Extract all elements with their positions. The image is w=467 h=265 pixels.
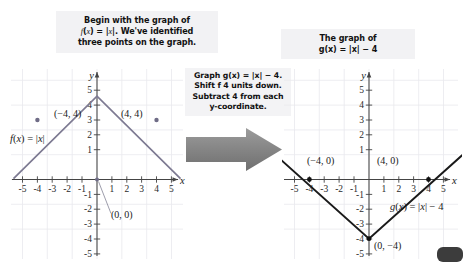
graph-svg-f: -5 -4 -3 -2 -1 1 2 3 4 5 5 4 3 2 1 -1 -2…: [8, 66, 186, 262]
caption-result-line2: g(x) = |x| − 4: [286, 44, 410, 55]
y-axis-arrowhead-f: [95, 72, 100, 78]
caption-transform-line4: y-coordinate.: [189, 102, 287, 112]
graph-panel-g: -5 -4 -3 -2 -1 1 2 3 4 5 5 4 3 2 1 -1 -2…: [282, 66, 462, 262]
point-marker-0-neg4: [367, 236, 372, 241]
svg-text:5: 5: [359, 85, 364, 95]
point-label-0-neg4: (0, −4): [374, 240, 401, 252]
svg-text:3: 3: [139, 184, 144, 194]
svg-text:-2: -2: [84, 204, 92, 214]
svg-text:4: 4: [359, 100, 364, 110]
caption-transform-line3: Subtract 4 from each: [189, 92, 287, 102]
axes-f: [12, 72, 178, 256]
point-marker-4-4: [154, 118, 158, 122]
transformation-figure: Begin with the graph of f(x) = |x|. We'v…: [0, 0, 467, 265]
svg-text:4: 4: [154, 184, 159, 194]
svg-text:5: 5: [87, 85, 92, 95]
svg-text:-3: -3: [48, 184, 56, 194]
caption-transform-line2: Shift f 4 units down.: [189, 81, 287, 91]
graph-panel-f: -5 -4 -3 -2 -1 1 2 3 4 5 5 4 3 2 1 -1 -2…: [8, 66, 186, 262]
svg-text:-5: -5: [19, 184, 27, 194]
svg-text:-3: -3: [84, 219, 92, 229]
point-label-neg4-4: (−4, 4): [54, 108, 81, 120]
caption-result-box: The graph of g(x) = |x| − 4: [281, 29, 415, 59]
function-label-f: f(x) = |x|: [10, 133, 45, 145]
point-marker-4-0: [426, 177, 431, 182]
svg-text:1: 1: [110, 184, 115, 194]
svg-text:-5: -5: [356, 249, 364, 259]
svg-text:-2: -2: [63, 184, 71, 194]
svg-text:-4: -4: [356, 234, 364, 244]
svg-text:5: 5: [169, 184, 174, 194]
svg-text:2: 2: [359, 130, 364, 140]
point-label-0-0: (0, 0): [111, 209, 133, 221]
caption-begin-line2: f(x) = |x|. We've identified: [61, 26, 213, 38]
x-axis-label-g: x: [451, 175, 457, 186]
x-axis-arrowhead-f: [173, 177, 179, 182]
graph-svg-g: -5 -4 -3 -2 -1 1 2 3 4 5 5 4 3 2 1 -1 -2…: [282, 66, 462, 262]
svg-text:2: 2: [124, 184, 129, 194]
x-axis-arrowhead-g: [445, 177, 451, 182]
y-axis-label-g: y: [360, 70, 366, 81]
caption-transform-box: Graph g(x) = |x| − 4. Shift f 4 units do…: [185, 68, 291, 116]
corner-tab-marker: [437, 247, 463, 262]
caption-transform-line1: Graph g(x) = |x| − 4.: [189, 71, 287, 81]
y-axis-label-f: y: [88, 70, 94, 81]
caption-begin-line3: three points on the graph.: [61, 37, 213, 48]
svg-text:2: 2: [87, 130, 92, 140]
y-axis-arrowhead-g: [367, 72, 372, 78]
point-label-4-4: (4, 4): [121, 108, 143, 120]
caption-begin-line1: Begin with the graph of: [61, 15, 213, 26]
svg-text:-5: -5: [84, 249, 92, 259]
svg-text:1: 1: [382, 184, 387, 194]
point-marker-neg4-4: [35, 118, 39, 122]
caption-begin-box: Begin with the graph of f(x) = |x|. We'v…: [56, 11, 218, 53]
svg-text:-4: -4: [84, 234, 92, 244]
svg-text:2: 2: [396, 184, 401, 194]
point-marker-neg4-0: [307, 177, 312, 182]
point-marker-0-0: [95, 178, 99, 182]
svg-text:-2: -2: [356, 204, 364, 214]
svg-text:3: 3: [359, 115, 364, 125]
svg-text:-1: -1: [356, 190, 364, 200]
svg-text:-5: -5: [291, 184, 299, 194]
svg-text:-3: -3: [320, 184, 328, 194]
y-tick-labels-f: 5 4 3 2 1 -1 -2 -3 -4 -5: [84, 85, 92, 259]
svg-text:-2: -2: [335, 184, 343, 194]
svg-text:3: 3: [411, 184, 416, 194]
svg-text:-1: -1: [84, 190, 92, 200]
rightward-block-arrow-icon: [186, 128, 282, 171]
function-label-g: g(x) = |x| − 4: [390, 201, 444, 213]
x-tick-labels-f: -5 -4 -3 -2 -1 1 2 3 4 5: [19, 184, 174, 194]
caption-result-line1: The graph of: [286, 33, 410, 44]
point-label-4-0: (4, 0): [377, 155, 399, 167]
svg-text:5: 5: [441, 184, 446, 194]
svg-text:3: 3: [87, 115, 92, 125]
x-axis-label-f: x: [179, 175, 185, 186]
point-label-neg4-0: (−4, 0): [307, 155, 334, 167]
svg-text:1: 1: [87, 145, 92, 155]
svg-text:-4: -4: [33, 184, 41, 194]
svg-text:1: 1: [359, 145, 364, 155]
